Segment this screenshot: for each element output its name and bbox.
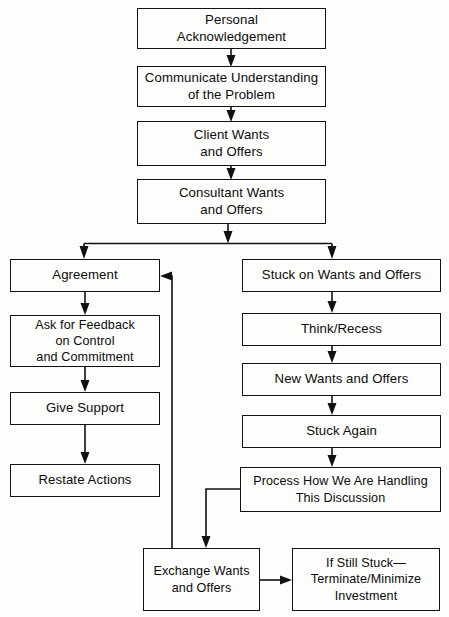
node-label: Process How We Are Handling This Discuss… bbox=[253, 473, 428, 505]
connector-client-to-consultant bbox=[227, 166, 236, 180]
node-label: Personal Acknowledgement bbox=[177, 12, 286, 46]
node-process-how[interactable]: Process How We Are Handling This Discuss… bbox=[240, 467, 441, 512]
connector-feedback-to-support bbox=[81, 367, 90, 392]
node-if-still-stuck[interactable]: If Still Stuck— Terminate/Minimize Inves… bbox=[292, 548, 440, 611]
node-label: Client Wants and Offers bbox=[194, 127, 269, 161]
connector-exchange-to-agreement bbox=[160, 272, 172, 549]
node-communicate-understanding[interactable]: Communicate Understanding of the Problem bbox=[137, 66, 326, 107]
node-give-support[interactable]: Give Support bbox=[10, 392, 160, 425]
node-ask-for-feedback[interactable]: Ask for Feedback on Control and Commitme… bbox=[10, 315, 160, 367]
connector-stuckagain-to-process bbox=[328, 448, 337, 467]
connector-exchange-to-stillstuck bbox=[260, 576, 292, 585]
node-exchange-wants[interactable]: Exchange Wants and Offers bbox=[143, 548, 260, 611]
node-stuck-again[interactable]: Stuck Again bbox=[242, 415, 441, 448]
connector-think-to-new bbox=[328, 346, 337, 363]
connector-new-to-stuckagain bbox=[328, 396, 337, 415]
node-label: Give Support bbox=[46, 400, 124, 417]
connector-consultant-to-split bbox=[224, 224, 233, 244]
node-label: If Still Stuck— Terminate/Minimize Inves… bbox=[311, 555, 421, 603]
node-label: New Wants and Offers bbox=[275, 371, 409, 388]
node-label: Communicate Understanding of the Problem bbox=[145, 70, 318, 104]
node-label: Stuck on Wants and Offers bbox=[262, 267, 421, 284]
node-personal-acknowledgement[interactable]: Personal Acknowledgement bbox=[137, 8, 326, 49]
connector-process-to-exchange bbox=[202, 489, 241, 548]
connector-support-to-restate bbox=[81, 425, 90, 464]
flowchart-canvas: Personal Acknowledgement Communicate Und… bbox=[0, 0, 449, 617]
connector-split-to-agreement bbox=[80, 244, 89, 260]
node-label: Ask for Feedback on Control and Commitme… bbox=[35, 317, 135, 365]
connector-personal-to-communicate bbox=[227, 49, 236, 67]
connector-agreement-to-feedback bbox=[81, 292, 90, 315]
node-label: Exchange Wants and Offers bbox=[153, 563, 249, 595]
node-new-wants[interactable]: New Wants and Offers bbox=[242, 363, 441, 396]
connector-split-to-stuck bbox=[328, 244, 337, 260]
node-stuck-on-wants[interactable]: Stuck on Wants and Offers bbox=[242, 259, 441, 292]
node-client-wants[interactable]: Client Wants and Offers bbox=[137, 121, 326, 166]
node-agreement[interactable]: Agreement bbox=[10, 259, 160, 292]
node-label: Consultant Wants and Offers bbox=[179, 185, 284, 219]
node-label: Agreement bbox=[52, 267, 117, 284]
connector-communicate-to-client bbox=[227, 107, 236, 122]
node-label: Think/Recess bbox=[301, 321, 382, 338]
node-restate-actions[interactable]: Restate Actions bbox=[10, 464, 160, 497]
node-consultant-wants[interactable]: Consultant Wants and Offers bbox=[137, 179, 326, 224]
connector-stuck-to-think bbox=[328, 292, 337, 313]
node-think-recess[interactable]: Think/Recess bbox=[242, 313, 441, 346]
node-label: Stuck Again bbox=[306, 423, 377, 440]
node-label: Restate Actions bbox=[38, 472, 131, 489]
